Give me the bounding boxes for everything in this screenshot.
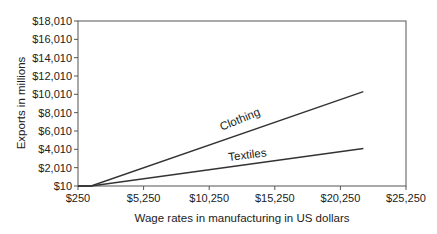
y-tick-label: $2,010: [38, 162, 72, 174]
y-tick-label: $10,010: [32, 88, 72, 100]
series-lines: ClothingTextiles: [78, 92, 363, 186]
x-tick-label: $20,250: [321, 192, 361, 204]
y-tick-label: $4,010: [38, 143, 72, 155]
series-line-textiles: [78, 149, 363, 186]
series-line-clothing: [78, 92, 363, 186]
y-tick-label: $18,010: [32, 15, 72, 27]
x-tick-label: $10,250: [189, 192, 229, 204]
y-tick-label: $16,010: [32, 33, 72, 45]
y-tick-label: $14,010: [32, 52, 72, 64]
y-axis-title: Exports in millions: [15, 56, 27, 149]
x-axis: $250$5,250$10,250$15,250$20,250$25,250: [66, 186, 426, 204]
series-label-textiles: Textiles: [228, 146, 268, 163]
x-axis-title: Wage rates in manufacturing in US dollar…: [135, 212, 350, 224]
y-tick-label: $10: [54, 180, 72, 192]
y-tick-label: $8,010: [38, 107, 72, 119]
x-tick-label: $250: [66, 192, 90, 204]
x-tick-label: $25,250: [386, 192, 426, 204]
x-tick-label: $5,250: [127, 192, 161, 204]
chart: $250$5,250$10,250$15,250$20,250$25,250 $…: [0, 0, 437, 234]
y-tick-label: $6,010: [38, 125, 72, 137]
y-axis: $10$2,010$4,010$6,010$8,010$10,010$12,01…: [32, 15, 78, 192]
y-tick-label: $12,010: [32, 70, 72, 82]
x-tick-label: $15,250: [255, 192, 295, 204]
